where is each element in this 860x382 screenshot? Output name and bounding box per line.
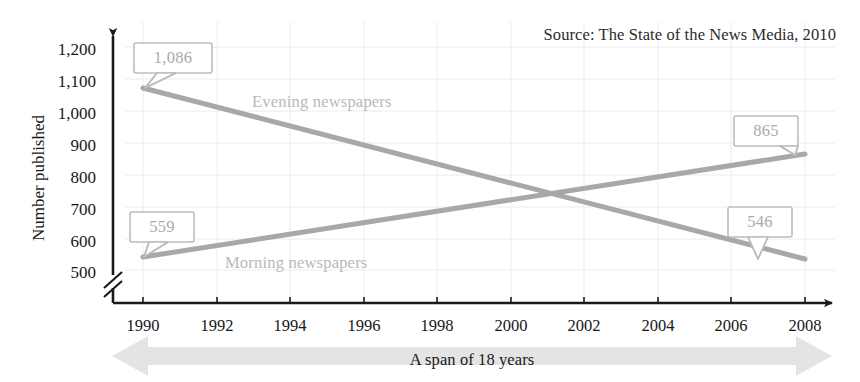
source-note: Source: The State of the News Media, 201… (544, 27, 836, 44)
x-tick-label-1998: 1998 (421, 318, 454, 335)
x-tick-label-1994: 1994 (274, 318, 307, 335)
y-tick-label-1100: 1,100 (34, 72, 96, 92)
y-tick-label-800: 800 (34, 168, 96, 188)
span-banner-label: A span of 18 years (410, 352, 535, 369)
x-tick-label-2002: 2002 (568, 318, 601, 335)
series-label-evening-newspapers: Evening newspapers (252, 92, 392, 112)
callout-value-evening-end: 546 (747, 212, 773, 232)
callout-value-evening-start: 1,086 (154, 48, 193, 68)
y-tick-label-600: 600 (34, 232, 96, 252)
y-tick-label-700: 700 (34, 200, 96, 220)
newspaper-line-chart: Source: The State of the News Media, 201… (0, 0, 860, 382)
y-tick-label-1000: 1,000 (34, 104, 96, 124)
x-tick-label-1990: 1990 (127, 318, 160, 335)
series-label-morning-newspapers: Morning newspapers (225, 253, 367, 273)
series-line-morning-newspapers (143, 154, 805, 257)
x-tick-label-2008: 2008 (789, 318, 822, 335)
y-tick-label-1200: 1,200 (34, 40, 96, 60)
y-tick-label-900: 900 (34, 136, 96, 156)
series-line-evening-newspapers (143, 88, 805, 259)
callout-bubbles (130, 43, 798, 259)
callout-value-morning-end: 865 (753, 121, 779, 141)
y-axis-tick-labels: 1,200 1,100 1,000 900 800 700 600 500 (34, 0, 96, 382)
y-tick-label-500: 500 (34, 263, 96, 283)
x-tick-label-2006: 2006 (715, 318, 748, 335)
x-tick-label-1996: 1996 (348, 318, 381, 335)
data-series (143, 88, 805, 259)
x-tick-label-2004: 2004 (642, 318, 675, 335)
x-tick-label-1992: 1992 (201, 318, 234, 335)
callout-value-morning-start: 559 (149, 217, 175, 237)
x-tick-label-2000: 2000 (495, 318, 528, 335)
